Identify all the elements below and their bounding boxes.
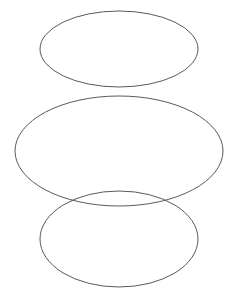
figure-canvas: Three Overlapping Ellipses Diagram A ver… [0, 0, 237, 298]
ellipses-svg: Three Overlapping Ellipses Diagram A ver… [0, 0, 237, 298]
canvas-background [0, 0, 237, 298]
